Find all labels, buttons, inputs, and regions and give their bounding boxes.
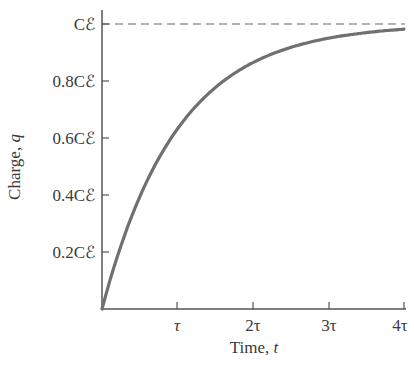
x-tick-label-tau: τ — [174, 316, 181, 335]
charging-curve — [102, 29, 404, 309]
y-ticks — [102, 24, 109, 252]
y-tick-label-0.6: 0.6Cℰ — [52, 129, 95, 148]
y-axis-title-text: Charge, — [5, 143, 24, 200]
charge-vs-time-chart: Cℰ 0.8Cℰ 0.6Cℰ 0.4Cℰ 0.2Cℰ τ 2τ 3τ 4τ Ti… — [0, 0, 414, 369]
y-tick-label-0.2: 0.2Cℰ — [52, 243, 95, 262]
x-tick-label-4tau: 4τ — [392, 316, 408, 335]
y-tick-label-0.4: 0.4Cℰ — [52, 186, 95, 205]
y-axis-title-var: q — [5, 134, 24, 143]
y-tick-label-1: Cℰ — [74, 15, 95, 34]
x-tick-label-3tau: 3τ — [321, 316, 337, 335]
y-tick-label-0.8: 0.8Cℰ — [52, 72, 95, 91]
x-tick-label-2tau: 2τ — [245, 316, 261, 335]
x-ticks — [177, 302, 404, 309]
x-axis-title: Time, t — [230, 338, 280, 357]
y-axis-title: Charge, q — [5, 134, 24, 200]
x-axis-title-var: t — [274, 338, 280, 357]
x-axis-title-text: Time, — [230, 338, 274, 357]
